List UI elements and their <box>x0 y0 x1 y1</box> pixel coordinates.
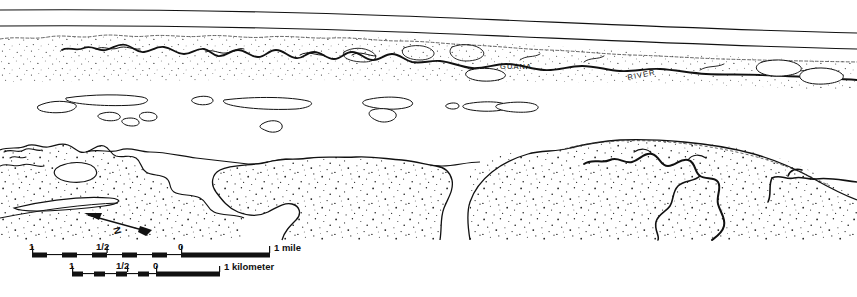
scale-miles-tick-half: 1/2 <box>96 241 109 252</box>
scale-km-tick-half: 1/2 <box>116 260 129 271</box>
scale-bar-miles: 1 1/2 0 1 mile <box>29 241 301 258</box>
lower-central-landmass <box>213 157 453 240</box>
map-figure: GUANA RIVER <box>0 0 857 297</box>
scale-miles-tick-1: 1 <box>29 241 35 252</box>
map-drawing: GUANA RIVER <box>0 0 857 297</box>
scale-km-tick-1: 1 <box>69 260 75 271</box>
river-label-guana: GUANA <box>500 62 532 71</box>
scale-km-tick-0: 0 <box>153 260 158 271</box>
lower-right-landmass <box>468 140 857 240</box>
scale-km-end-label: 1 kilometer <box>224 261 274 272</box>
scale-bar-kilometers: 1 1/2 0 1 kilometer <box>69 260 274 277</box>
sand-bar-islands <box>37 95 538 132</box>
upper-marsh-band <box>0 35 857 92</box>
scale-miles-end-label: 1 mile <box>274 242 301 253</box>
scale-miles-tick-0: 0 <box>178 241 183 252</box>
